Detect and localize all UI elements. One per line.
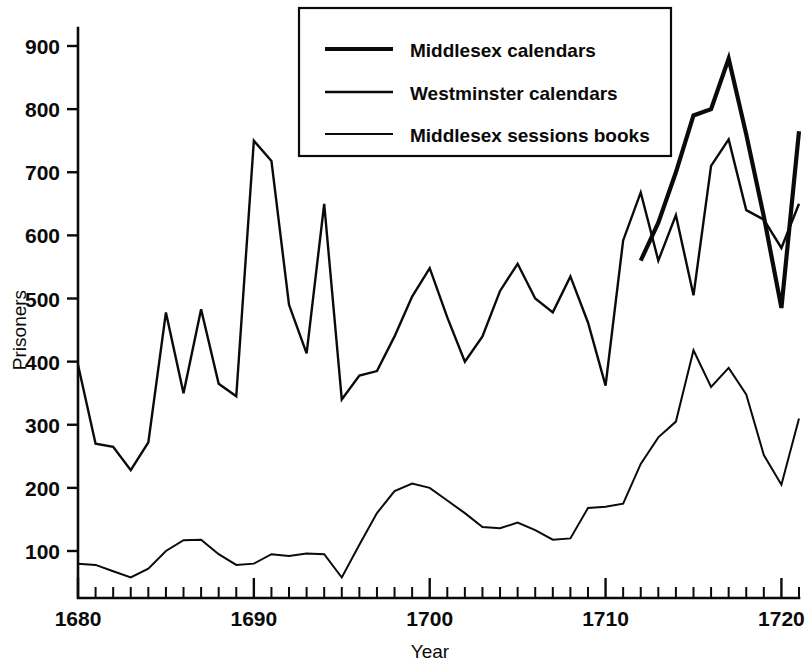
x-tick-label: 1710 [582,607,629,630]
x-tick-label: 1700 [406,607,453,630]
y-tick-label: 400 [25,351,60,374]
x-tick-label: 1680 [55,607,102,630]
y-tick-label: 500 [25,288,60,311]
y-axis-title: Prisoners [9,290,30,370]
y-tick-label: 300 [25,414,60,437]
x-axis-ticks [78,578,799,598]
y-tick-label: 800 [25,98,60,121]
legend-label-middlesex-calendars: Middlesex calendars [410,40,596,61]
y-axis-tick-labels: 100200300400500600700800900 [25,35,60,563]
y-axis-ticks [67,46,78,551]
y-tick-label: 200 [25,477,60,500]
chart-legend: Middlesex calendars Westminster calendar… [299,8,671,156]
x-tick-label: 1720 [758,607,805,630]
series-line-westminster-calendars [78,139,799,470]
chart-canvas: 100200300400500600700800900 168016901700… [0,0,812,665]
y-tick-label: 100 [25,540,60,563]
x-axis-tick-labels: 16801690170017101720 [55,607,805,630]
y-tick-label: 600 [25,224,60,247]
y-tick-label: 900 [25,35,60,58]
legend-label-westminster-calendars: Westminster calendars [410,83,618,104]
x-axis-title: Year [411,641,450,662]
prisoners-line-chart: 100200300400500600700800900 168016901700… [0,0,812,665]
x-tick-label: 1690 [230,607,277,630]
legend-label-middlesex-sessions-books: Middlesex sessions books [410,125,650,146]
y-tick-label: 700 [25,161,60,184]
